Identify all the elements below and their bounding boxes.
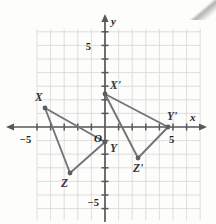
tick-label-group: −5 5 5 −5 — [20, 41, 174, 208]
vertex-dot-x-prime — [103, 92, 108, 97]
vertex-dot-y-prime — [166, 125, 171, 130]
origin-label: O — [94, 132, 102, 144]
x-tick-label-5: 5 — [169, 134, 174, 145]
x-axis-arrow-right — [199, 123, 207, 130]
coordinate-plane-svg: X Y Z X' Y' Z' x y O −5 5 5 −5 — [0, 0, 216, 224]
vertex-label-z: Z — [60, 177, 68, 189]
y-axis-arrow-up — [101, 14, 108, 22]
vertex-label-x: X — [34, 91, 43, 103]
y-tick-label-5: 5 — [86, 41, 91, 52]
x-axis-arrow-left — [6, 123, 14, 130]
y-axis-label: y — [109, 15, 116, 27]
vertex-points — [43, 92, 171, 176]
vertex-label-y-prime: Y' — [167, 110, 177, 122]
vertex-label-x-prime: X' — [109, 79, 121, 91]
coordinate-plane-figure: X Y Z X' Y' Z' x y O −5 5 5 −5 — [0, 0, 216, 224]
vertex-dot-x — [43, 106, 48, 111]
tick-marks — [37, 32, 187, 209]
vertex-dot-z-prime — [136, 156, 141, 161]
vertex-dot-y — [103, 140, 108, 145]
vertex-dot-z — [68, 171, 73, 176]
vertex-label-y: Y — [110, 142, 118, 154]
x-axis-label: x — [189, 111, 196, 123]
x-tick-label-neg-5: −5 — [20, 134, 31, 145]
y-tick-label-neg-5: −5 — [88, 197, 99, 208]
vertex-label-z-prime: Z' — [132, 162, 143, 174]
